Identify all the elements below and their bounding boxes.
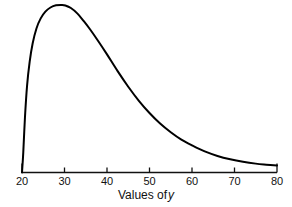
x-tick-label-20: 20: [16, 176, 28, 187]
x-axis-label-prefix: Values of: [118, 188, 167, 202]
x-tick-label-70: 70: [228, 176, 240, 187]
x-tick-label-80: 80: [271, 176, 283, 187]
x-axis-ticks: [22, 164, 277, 173]
x-axis-group: [22, 164, 277, 173]
x-tick-label-50: 50: [143, 176, 155, 187]
x-axis-label-variable: y: [167, 188, 174, 202]
x-axis-label: Values ofy: [118, 189, 174, 202]
figure-container: 20304050607080 Values ofy: [0, 0, 292, 207]
x-tick-label-60: 60: [186, 176, 198, 187]
density-curve: [22, 5, 277, 173]
x-tick-label-30: 30: [58, 176, 70, 187]
x-tick-label-40: 40: [101, 176, 113, 187]
